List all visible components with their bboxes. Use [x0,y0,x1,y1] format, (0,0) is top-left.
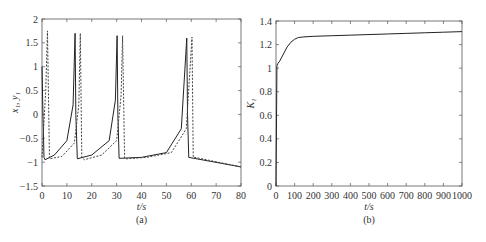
x-tick-label: 100 [287,190,302,201]
x-axis-label: t/s [364,201,374,212]
x-tick-label: 300 [324,190,339,201]
y-tick-label: 0 [267,181,272,192]
series-line-y1 [42,31,241,167]
y-tick-label: 0.6 [260,110,273,121]
y-tick-label: 0.4 [260,133,273,144]
x-tick-label: 10 [62,190,72,201]
y-tick-label: 1.5 [26,37,39,48]
y-tick-label: 0.8 [260,86,273,97]
y-tick-label: 2 [33,14,38,25]
x-tick-label: 800 [417,190,432,201]
panel-caption: (a) [136,214,147,226]
x-tick-label: 1000 [452,190,472,201]
x-tick-label: 30 [112,190,122,201]
panel-a-chart: 0102030405060708021.510.50−0.5−1−1.5t/sx… [9,14,246,227]
y-axis-label: x₁, y₁ [9,92,20,114]
axes-frame [42,19,241,186]
x-tick-label: 400 [343,190,358,201]
panel-b-chart: 010020030040050060070080090010001.41.210… [245,16,472,227]
y-tick-label: −0.5 [20,133,38,144]
x-tick-label: 600 [380,190,395,201]
x-tick-label: 70 [211,190,221,201]
x-tick-label: 700 [399,190,414,201]
series-line-K1 [276,32,462,186]
y-axis-label: K₁ [245,98,256,109]
x-tick-label: 200 [306,190,321,201]
y-tick-label: 1.2 [260,39,273,50]
x-tick-label: 0 [40,190,45,201]
y-tick-label: 1 [33,61,38,72]
y-tick-label: 1 [267,63,272,74]
series-line-x1 [42,33,241,167]
y-tick-label: −1 [27,157,38,168]
y-tick-label: −1.5 [20,181,38,192]
panel-caption: (b) [363,214,375,226]
y-tick-label: 0.5 [26,85,39,96]
y-tick-label: 0 [33,109,38,120]
x-tick-label: 50 [161,190,171,201]
x-tick-label: 0 [274,190,279,201]
x-tick-label: 80 [236,190,246,201]
y-tick-label: 0.2 [260,157,273,168]
x-tick-label: 20 [87,190,97,201]
figure: 0102030405060708021.510.50−0.5−1−1.5t/sx… [0,0,486,242]
x-tick-label: 900 [436,190,451,201]
y-tick-label: 1.4 [260,16,273,27]
x-tick-label: 500 [362,190,377,201]
axes-frame [276,21,462,186]
x-tick-label: 40 [137,190,147,201]
x-tick-label: 60 [186,190,196,201]
x-axis-label: t/s [137,201,147,212]
